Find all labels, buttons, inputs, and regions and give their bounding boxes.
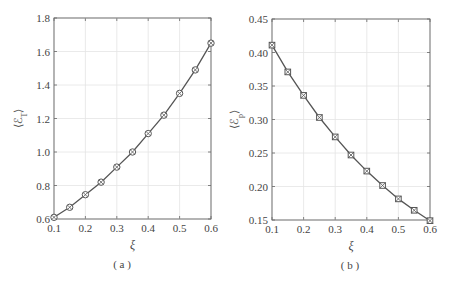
- data-line: [54, 43, 211, 217]
- y-tick-label: 0.45: [249, 13, 269, 25]
- y-tick-label: 0.40: [249, 47, 269, 59]
- y-tick-label: 1.2: [36, 113, 50, 125]
- y-tick-label: 1.6: [36, 46, 50, 58]
- x-tick-label: 0.5: [173, 222, 187, 234]
- figure: 0.10.20.30.40.50.60.60.81.01.21.41.61.8ξ…: [0, 0, 451, 281]
- panel-caption: ( a ): [113, 258, 131, 271]
- x-axis-label: ξ: [130, 238, 136, 252]
- y-tick-label: 0.20: [249, 181, 269, 193]
- x-axis-label: ξ: [348, 239, 354, 253]
- data-point-marker: [427, 218, 433, 224]
- y-tick-label: 0.25: [249, 147, 269, 159]
- x-tick-label: 0.6: [204, 222, 218, 234]
- data-point-marker: [269, 42, 275, 48]
- data-point-marker: [332, 134, 338, 140]
- y-tick-label: 1.0: [36, 146, 50, 158]
- y-tick-label: 0.15: [249, 214, 269, 226]
- x-tick-label: 0.5: [392, 223, 406, 235]
- data-point-marker: [411, 207, 417, 213]
- panel-caption: ( b ): [341, 259, 360, 272]
- chart-panel-a: 0.10.20.30.40.50.60.60.81.01.21.41.61.8ξ…: [12, 12, 218, 271]
- data-point-marker: [51, 214, 57, 220]
- x-tick-label: 0.4: [141, 222, 155, 234]
- x-tick-label: 0.2: [297, 223, 311, 235]
- data-point-marker: [114, 164, 120, 170]
- y-tick-label: 0.8: [36, 180, 50, 192]
- data-point-marker: [380, 183, 386, 189]
- y-tick-label: 1.4: [36, 79, 50, 91]
- data-point-marker: [364, 168, 370, 174]
- y-tick-label: 0.35: [249, 80, 269, 92]
- data-point-marker: [67, 204, 73, 210]
- y-tick-label: 0.30: [249, 114, 269, 126]
- data-point-marker: [285, 69, 291, 75]
- data-point-marker: [129, 149, 135, 155]
- data-point-marker: [208, 40, 214, 46]
- y-tick-label: 1.8: [36, 12, 50, 24]
- x-tick-label: 0.2: [79, 222, 93, 234]
- data-point-marker: [161, 112, 167, 118]
- data-point-marker: [317, 115, 323, 121]
- data-point-marker: [192, 67, 198, 73]
- data-point-marker: [396, 196, 402, 202]
- y-axis-label: ⟨ℰT⟩: [12, 109, 29, 129]
- data-point-marker: [348, 152, 354, 158]
- y-axis-label: ⟨ℰp⟩: [228, 110, 245, 129]
- x-tick-label: 0.4: [360, 223, 374, 235]
- data-line: [272, 45, 430, 221]
- x-tick-label: 0.3: [328, 223, 342, 235]
- data-point-marker: [145, 130, 151, 136]
- x-tick-label: 0.3: [110, 222, 124, 234]
- x-tick-label: 0.6: [423, 223, 437, 235]
- data-point-marker: [301, 93, 307, 99]
- chart-panel-b: 0.10.20.30.40.50.60.150.200.250.300.350.…: [228, 13, 437, 272]
- y-tick-label: 0.6: [36, 213, 50, 225]
- data-point-marker: [98, 179, 104, 185]
- data-point-marker: [82, 192, 88, 198]
- data-point-marker: [176, 90, 182, 96]
